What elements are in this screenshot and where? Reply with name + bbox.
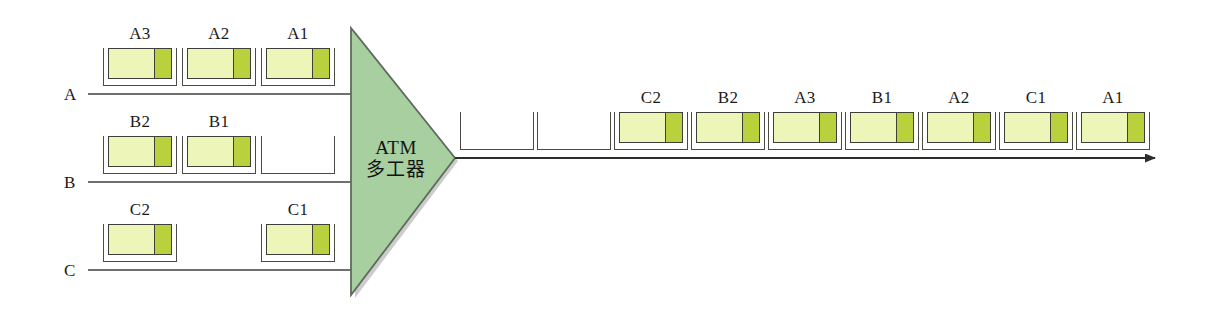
cell-box [927,112,991,143]
cell-payload [1005,113,1050,142]
cell-header [1127,113,1144,142]
input-a-slot-1-label: A3 [103,25,177,42]
output-slot-6-label: B1 [845,89,919,106]
mux-label-line1: ATM [360,137,432,159]
cell-payload [851,113,896,142]
output-slot-9-label: A1 [1076,89,1150,106]
cell-box [266,224,330,255]
input-b-slot-1-label: B2 [103,113,177,130]
cell-header [233,49,250,78]
mux-label: ATM 多工器 [360,137,432,181]
output-slot-8-label: C1 [999,89,1073,106]
cell-payload [109,49,154,78]
cell-header [154,225,171,254]
cell-header [312,225,329,254]
cell-header [312,49,329,78]
cell-header [896,113,913,142]
input-b-slot-1[interactable]: B2 [103,136,177,174]
input-line-a-label: A [64,86,76,103]
cell-payload [109,225,154,254]
cell-header [233,137,250,166]
cell-bracket [460,112,534,150]
cell-box [1081,112,1145,143]
cell-box [108,48,172,79]
cell-payload [774,113,819,142]
input-a-slot-1[interactable]: A3 [103,48,177,86]
input-c-slot-2-empty[interactable] [182,224,256,262]
atm-multiplexer-diagram: A B C A3 A2 A1 B2 B1 [0,0,1209,318]
cell-header [154,49,171,78]
cell-payload [620,113,665,142]
cell-payload [188,137,233,166]
cell-payload [109,137,154,166]
input-a-slot-3[interactable]: A1 [261,48,335,86]
cell-header [973,113,990,142]
cell-payload [267,49,312,78]
cell-header [742,113,759,142]
input-b-slot-3-empty[interactable] [261,136,335,174]
input-a-slot-2-label: A2 [182,25,256,42]
cell-payload [267,225,312,254]
output-slot-2-empty[interactable] [537,112,611,150]
input-c-slot-1[interactable]: C2 [103,224,177,262]
output-slot-7-label: A2 [922,89,996,106]
cell-header [665,113,682,142]
input-b-slot-2-label: B1 [182,113,256,130]
cell-box [619,112,683,143]
output-slot-4[interactable]: B2 [691,112,765,150]
input-c-slot-3[interactable]: C1 [261,224,335,262]
cell-box [187,48,251,79]
cell-box [108,136,172,167]
output-slot-6[interactable]: B1 [845,112,919,150]
cell-header [154,137,171,166]
output-slot-5-label: A3 [768,89,842,106]
cell-header [819,113,836,142]
cell-box [850,112,914,143]
cell-box [696,112,760,143]
cell-payload [188,49,233,78]
cell-payload [928,113,973,142]
output-slot-3-label: C2 [614,89,688,106]
input-a-slot-3-label: A1 [261,25,335,42]
cell-bracket [261,136,335,174]
cell-box [773,112,837,143]
cell-box [108,224,172,255]
cell-box [187,136,251,167]
cell-bracket [182,224,256,262]
input-c-slot-1-label: C2 [103,201,177,218]
input-line-c-label: C [64,262,75,279]
cell-payload [697,113,742,142]
mux-label-line2: 多工器 [360,159,432,181]
cell-box [266,48,330,79]
input-line-b-label: B [64,174,75,191]
input-c-slot-3-label: C1 [261,201,335,218]
input-a-slot-2[interactable]: A2 [182,48,256,86]
cell-payload [1082,113,1127,142]
output-slot-8[interactable]: C1 [999,112,1073,150]
cell-header [1050,113,1067,142]
output-slot-3[interactable]: C2 [614,112,688,150]
output-slot-9[interactable]: A1 [1076,112,1150,150]
input-b-slot-2[interactable]: B1 [182,136,256,174]
output-slot-5[interactable]: A3 [768,112,842,150]
cell-box [1004,112,1068,143]
output-slot-7[interactable]: A2 [922,112,996,150]
output-slot-1-empty[interactable] [460,112,534,150]
output-slot-4-label: B2 [691,89,765,106]
cell-bracket [537,112,611,150]
